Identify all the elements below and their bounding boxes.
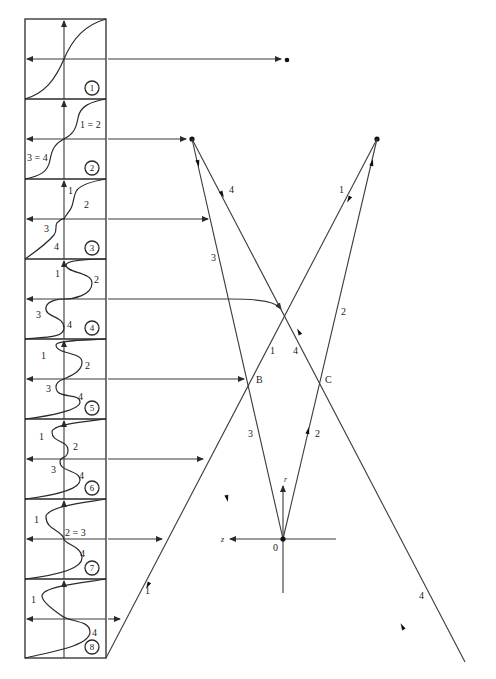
svg-text:3: 3 xyxy=(211,252,216,263)
svg-text:4: 4 xyxy=(78,391,83,402)
ray-2 xyxy=(283,139,377,539)
svg-text:1: 1 xyxy=(55,268,60,279)
svg-text:1: 1 xyxy=(41,350,46,361)
ray-1 xyxy=(106,139,377,658)
svg-text:1: 1 xyxy=(39,431,44,442)
ray-4-arrow-bottom xyxy=(399,622,406,630)
focal-point-1 xyxy=(285,58,290,63)
origin-axes: z r 0 xyxy=(220,475,336,593)
svg-text:2: 2 xyxy=(94,274,99,285)
ray-2-arrow-bottom xyxy=(305,427,310,435)
svg-text:1: 1 xyxy=(34,514,39,525)
svg-text:1: 1 xyxy=(68,185,73,196)
point-c-label: C xyxy=(325,374,332,385)
ray-3 xyxy=(192,139,283,539)
svg-text:4: 4 xyxy=(229,184,234,195)
svg-text:4: 4 xyxy=(54,241,59,252)
svg-text:1: 1 xyxy=(339,184,344,195)
r-axis-label: r xyxy=(284,475,288,484)
panel-4-index: 4 xyxy=(90,323,95,333)
ray-diagram: 1 2 3 4 5 6 7 8 1 = 2 3 = 4 1 2 3 4 1 2 … xyxy=(0,0,496,679)
ray-3-arrow-bottom xyxy=(224,495,229,503)
panel-5-index: 5 xyxy=(90,403,95,413)
svg-text:3: 3 xyxy=(51,464,56,475)
origin-point xyxy=(280,536,285,541)
svg-text:3: 3 xyxy=(36,309,41,320)
svg-text:2: 2 xyxy=(85,360,90,371)
panel-6-index: 6 xyxy=(90,483,95,493)
ray-4-arrow-mid xyxy=(295,328,302,336)
panel-to-ray-connectors xyxy=(108,58,289,619)
svg-text:2: 2 xyxy=(73,441,78,452)
svg-text:3: 3 xyxy=(248,428,253,439)
panel-7-index: 7 xyxy=(90,563,95,573)
svg-text:1: 1 xyxy=(270,345,275,356)
svg-text:2: 2 xyxy=(315,428,320,439)
origin-label: 0 xyxy=(273,542,278,553)
panel-column: 1 2 3 4 5 6 7 8 1 = 2 3 = 4 1 2 3 4 1 2 … xyxy=(25,19,106,658)
svg-text:2: 2 xyxy=(84,199,89,210)
svg-text:4: 4 xyxy=(67,319,72,330)
panel-8-index: 8 xyxy=(90,642,95,652)
svg-text:3 = 4: 3 = 4 xyxy=(27,152,48,163)
svg-text:4: 4 xyxy=(293,345,298,356)
svg-text:3: 3 xyxy=(44,223,49,234)
svg-text:3: 3 xyxy=(46,383,51,394)
svg-text:1: 1 xyxy=(31,594,36,605)
rays xyxy=(106,139,465,662)
panel-3-index: 3 xyxy=(90,243,95,253)
svg-text:1: 1 xyxy=(145,585,150,596)
ray-4 xyxy=(192,139,465,662)
svg-text:4: 4 xyxy=(419,590,424,601)
point-b-label: B xyxy=(256,374,263,385)
z-axis-label: z xyxy=(220,535,225,544)
svg-text:1 = 2: 1 = 2 xyxy=(80,119,101,130)
panel-2-index: 2 xyxy=(90,163,95,173)
svg-text:2 = 3: 2 = 3 xyxy=(65,527,86,538)
svg-text:2: 2 xyxy=(341,306,346,317)
svg-text:4: 4 xyxy=(79,470,84,481)
svg-text:4: 4 xyxy=(92,627,97,638)
svg-text:4: 4 xyxy=(80,548,85,559)
panel-1-index: 1 xyxy=(90,83,95,93)
